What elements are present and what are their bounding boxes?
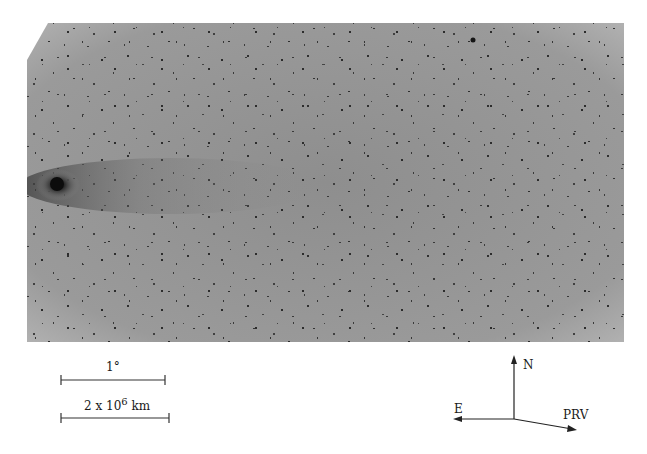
scale-bar-degree [61,375,165,385]
scale-label-km: 2 x 106 km [84,399,150,413]
bright-star [471,38,476,43]
plate-image [20,23,624,342]
scale-km-base: 2 x 10 [84,399,121,413]
compass-rose [453,355,577,432]
scale-label-degree: 1° [106,360,120,374]
compass-north-label: N [523,358,534,372]
scale-km-exponent: 6 [121,396,127,407]
scale-bar-km [61,413,169,423]
scale-km-unit: km [128,399,150,413]
compass-prv-label: PRV [563,408,588,422]
compass-east-label: E [454,402,463,416]
comet-plate [0,0,647,454]
